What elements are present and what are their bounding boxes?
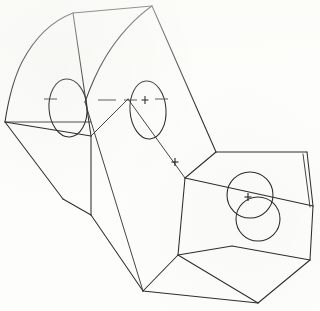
right-block-inner-rear-edge [232, 246, 310, 260]
left-block-bottom-notch-edge [63, 199, 91, 215]
left-block-long-diagonal-edge [91, 215, 143, 291]
elliptical-hole-right [128, 80, 168, 140]
right-block-inner-left-edge [143, 255, 178, 291]
right-block-inner-face-edge [178, 246, 232, 255]
right-block-group [143, 152, 313, 303]
right-block-right-vertical-edge [310, 206, 313, 260]
center-mark-right-ellipse [142, 96, 149, 104]
elliptical-hole-left [47, 78, 89, 139]
left-block-lower-left-edge [5, 122, 63, 199]
right-block-top-left-edge [185, 152, 216, 178]
left-block-inner-arc [85, 6, 152, 102]
circular-hole-upper [227, 172, 273, 218]
right-block-rear-right-edge [307, 152, 313, 206]
left-block-inner-fold-edge [91, 99, 128, 136]
left-block-inner-fold-edge-2 [128, 99, 185, 178]
isometric-drawing-svg [0, 0, 320, 311]
right-block-left-vertical-edge [178, 178, 185, 255]
center-mark-mid-face [172, 158, 179, 166]
right-block-rear-right-edge-inner [303, 154, 310, 207]
left-block-outer-arc [5, 13, 73, 122]
center-mark-upper-circle [245, 193, 252, 201]
left-block-top-edge [73, 6, 152, 13]
left-block-rear-crossing-edge [85, 102, 143, 291]
left-block-rear-vertical-edge [73, 13, 91, 136]
center-marks-group [142, 96, 252, 201]
holes-group [47, 78, 280, 241]
right-block-top-front-edge [185, 178, 313, 206]
left-block-group [5, 6, 216, 291]
circular-hole-lower [236, 197, 280, 241]
technical-drawing-canvas [0, 0, 320, 311]
right-block-bottom-right-edge [258, 260, 310, 303]
